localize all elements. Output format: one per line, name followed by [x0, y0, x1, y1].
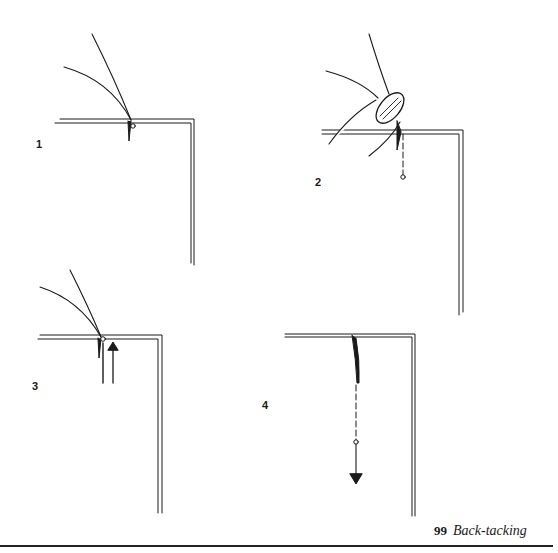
panel-3-diagram	[38, 270, 162, 513]
step-label-4: 4	[262, 399, 268, 411]
step-label-3: 3	[32, 380, 38, 392]
figure-title: Back-tacking	[453, 523, 527, 538]
back-tacking-figure: 1 2 3 4 99Back-tacking	[0, 0, 558, 553]
step-label-2: 2	[315, 176, 321, 188]
illustration-svg	[0, 0, 558, 553]
bottom-rule-divider	[0, 545, 553, 547]
figure-number: 99	[434, 523, 447, 538]
panel-1-diagram	[55, 34, 194, 265]
panel-4-diagram	[285, 334, 415, 516]
panel-2-diagram	[322, 34, 463, 315]
step-label-1: 1	[36, 138, 42, 150]
figure-caption: 99Back-tacking	[434, 523, 527, 539]
